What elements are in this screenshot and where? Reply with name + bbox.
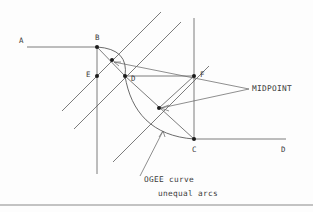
radius-line-f-midpoint (159, 76, 194, 108)
point-dot-f (192, 74, 196, 78)
label-point-f: F (200, 70, 205, 79)
label-point-e: E (86, 70, 91, 79)
technical-drawing: A B E D F C C D MIDPOINT OGEE curve uneq… (0, 0, 313, 212)
note-line-1: OGEE curve (144, 175, 194, 184)
point-dot-arc-midpoint-upper (110, 58, 114, 62)
label-point-b: B (95, 33, 100, 42)
drawing-canvas: A B E D F C C D MIDPOINT OGEE curve uneq… (0, 0, 313, 212)
label-point-d: D (131, 74, 136, 83)
midpoint-leader-lower (161, 89, 249, 108)
point-dot-d (123, 74, 127, 78)
note-line-2: unequal arcs (158, 189, 218, 198)
point-dot-e (95, 74, 99, 78)
label-point-a: A (19, 36, 24, 45)
note-leader-line (140, 131, 163, 176)
label-point-c: C (192, 145, 197, 154)
label-midpoint: MIDPOINT (252, 84, 292, 93)
point-dot-b (95, 45, 99, 49)
label-point-d-end: D (281, 145, 286, 154)
point-dot-c (192, 137, 196, 141)
point-dot-arc-midpoint-lower (157, 106, 161, 110)
